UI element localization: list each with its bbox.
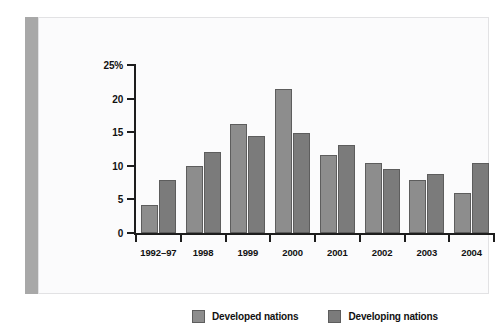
x-tick xyxy=(359,233,361,242)
y-tick xyxy=(127,165,135,167)
bar-group xyxy=(454,65,489,233)
x-tick xyxy=(493,233,495,242)
bar xyxy=(320,155,337,233)
bar xyxy=(230,124,247,233)
bar xyxy=(186,166,203,233)
x-axis-label: 1992–97 xyxy=(140,247,176,258)
bar xyxy=(365,163,382,233)
x-axis-label: 2004 xyxy=(461,247,482,258)
y-tick xyxy=(127,98,135,100)
bar xyxy=(204,152,221,233)
x-axis-label: 1998 xyxy=(193,247,214,258)
bar-group xyxy=(141,65,176,233)
x-tick xyxy=(269,233,271,242)
y-tick-label: 20 xyxy=(112,93,123,104)
bar xyxy=(454,193,471,233)
legend-label: Developed nations xyxy=(212,311,298,322)
bar xyxy=(159,180,176,233)
bar-group xyxy=(409,65,444,233)
x-tick xyxy=(225,233,227,242)
legend-swatch xyxy=(192,310,205,323)
chart-legend: Developed nationsDeveloping nations xyxy=(136,310,494,323)
y-tick xyxy=(127,64,135,66)
x-axis-label: 2000 xyxy=(282,247,303,258)
y-axis-line xyxy=(134,64,136,234)
bar xyxy=(248,136,265,233)
bar xyxy=(293,133,310,233)
bar xyxy=(338,145,355,233)
plot-area: 0510152025% 1992–97199819992000200120022… xyxy=(136,65,494,233)
bar-group xyxy=(365,65,400,233)
y-tick-label: 10 xyxy=(112,160,123,171)
y-tick-label: 5 xyxy=(118,194,123,205)
y-tick-label: 0 xyxy=(118,228,123,239)
y-tick-label: 15 xyxy=(112,127,123,138)
bar xyxy=(427,174,444,233)
legend-item: Developing nations xyxy=(328,310,438,323)
bar xyxy=(409,180,426,233)
x-tick xyxy=(314,233,316,242)
bar xyxy=(472,163,489,233)
y-tick-label: 25% xyxy=(104,60,123,71)
bar-group xyxy=(230,65,265,233)
x-axis-label: 1999 xyxy=(238,247,259,258)
y-tick xyxy=(127,131,135,133)
bar-group xyxy=(320,65,355,233)
legend-item: Developed nations xyxy=(192,310,298,323)
x-axis-label: 2003 xyxy=(417,247,438,258)
x-tick xyxy=(404,233,406,242)
x-tick xyxy=(448,233,450,242)
legend-label: Developing nations xyxy=(348,311,438,322)
x-axis-label: 2002 xyxy=(372,247,393,258)
y-tick xyxy=(127,198,135,200)
bar-group xyxy=(275,65,310,233)
bar xyxy=(141,205,158,233)
y-tick xyxy=(127,232,135,234)
bar xyxy=(275,89,292,233)
bar xyxy=(383,169,400,233)
accent-strip xyxy=(25,17,38,294)
chart-panel: 0510152025% 1992–97199819992000200120022… xyxy=(38,17,489,294)
bar-group xyxy=(186,65,221,233)
x-tick xyxy=(135,233,137,242)
legend-swatch xyxy=(328,310,341,323)
x-tick xyxy=(180,233,182,242)
x-axis-label: 2001 xyxy=(327,247,348,258)
